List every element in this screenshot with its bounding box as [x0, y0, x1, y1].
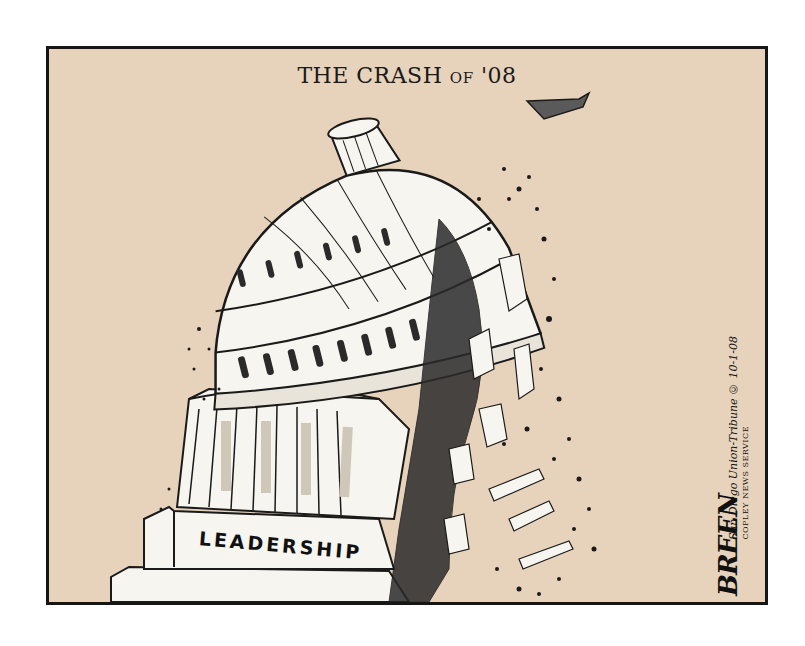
cartoon-panel: THE CRASH OF '08 — [46, 46, 768, 605]
capitol-illustration — [49, 49, 765, 602]
capitol-dome — [155, 89, 546, 433]
credit-service: COPLEY NEWS SERVICE — [741, 426, 750, 540]
artist-credit: BREEN San Diego Union-Tribune © 10-1-08 … — [713, 366, 757, 596]
statue-fragment — [527, 93, 589, 119]
credit-publication: San Diego Union-Tribune © 10-1-08 — [727, 336, 740, 540]
capitol-base — [111, 507, 409, 602]
capitol-drum — [177, 389, 409, 519]
